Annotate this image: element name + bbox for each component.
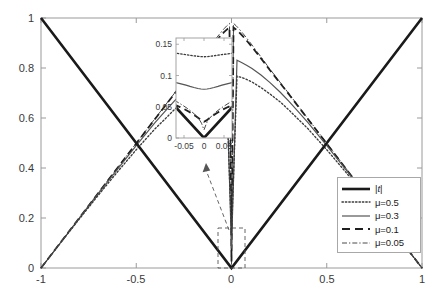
- main-xtick-1: 1: [419, 273, 425, 285]
- figure-container: 0 0.2 0.4 0.6 0.8 1 -1 -0.5 0 0.5 1 0 0.…: [0, 0, 442, 306]
- inset-xtick-0: 0: [202, 141, 207, 151]
- main-xtick-0: 0: [228, 273, 234, 285]
- legend-item-mu-0-3[interactable]: μ=0.3: [341, 209, 417, 223]
- legend-item-mu-0-5[interactable]: μ=0.5: [341, 196, 417, 210]
- legend-label-mu-0-1: μ=0.1: [375, 224, 399, 235]
- legend-swatch-mu-0-3: [341, 210, 371, 222]
- legend-item-abs-t[interactable]: |t|: [341, 182, 417, 196]
- inset-ytick-0-1: 0.1: [142, 71, 172, 81]
- legend-swatch-mu-0-1: [341, 223, 371, 235]
- inset-xtick-0-05: 0.05: [216, 141, 233, 151]
- chart-canvas: [0, 0, 442, 306]
- legend-swatch-mu-0-5: [341, 196, 371, 208]
- inset-axes: [174, 38, 234, 138]
- inset-plot-box: [176, 38, 232, 138]
- legend-item-mu-0-1[interactable]: μ=0.1: [341, 223, 417, 237]
- main-xtick-neg1: -1: [36, 273, 46, 285]
- legend-label-mu-0-05: μ=0.05: [375, 237, 404, 248]
- inset-ytick-0-15: 0.15: [142, 39, 172, 49]
- inset-ytick-0: 0: [142, 133, 172, 143]
- main-xtick-neg0-5: -0.5: [127, 273, 146, 285]
- inset-ytick-0-05: 0.05: [142, 102, 172, 112]
- legend-box[interactable]: |t| μ=0.5 μ=0.3 μ=0.1 μ=0.05: [337, 177, 421, 253]
- main-xtick-0-5: 0.5: [319, 273, 334, 285]
- legend-label-mu-0-5: μ=0.5: [375, 197, 399, 208]
- main-ytick-0-8: 0.8: [8, 62, 34, 74]
- main-ytick-1: 1: [8, 12, 34, 24]
- legend-label-mu-0-3: μ=0.3: [375, 210, 399, 221]
- main-ytick-0-2: 0.2: [8, 212, 34, 224]
- main-ytick-0: 0: [8, 262, 34, 274]
- inset-xtick-neg0-05: -0.05: [174, 141, 193, 151]
- legend-label-abs-t: |t|: [375, 183, 382, 194]
- legend-swatch-mu-0-05: [341, 237, 371, 249]
- main-ytick-0-6: 0.6: [8, 112, 34, 124]
- legend-item-mu-0-05[interactable]: μ=0.05: [341, 236, 417, 250]
- legend-swatch-abs-t: [341, 183, 371, 195]
- main-ytick-0-4: 0.4: [8, 162, 34, 174]
